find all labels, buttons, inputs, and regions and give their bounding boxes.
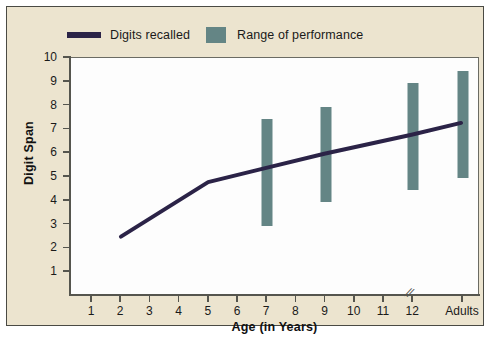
y-tick-7 (63, 128, 70, 130)
chart-panel: Digits recalled Range of performance 123… (6, 6, 484, 326)
x-tick-label-6: 6 (234, 304, 241, 318)
chart-figure: Digits recalled Range of performance 123… (0, 0, 494, 339)
x-tick-label-1: 1 (88, 304, 95, 318)
x-tick-label-9: 9 (321, 304, 328, 318)
x-tick-label-12: 12 (406, 304, 419, 318)
y-tick-label-4: 4 (39, 193, 57, 207)
y-tick-10 (63, 56, 70, 58)
x-tick-label-8: 8 (292, 304, 299, 318)
y-tick-5 (63, 175, 70, 177)
y-tick-label-10: 10 (39, 50, 57, 64)
x-tick-label-4: 4 (175, 304, 182, 318)
legend-item-range-of-performance: Range of performance (206, 22, 363, 48)
x-tick-label-10: 10 (347, 304, 360, 318)
x-tick-9 (324, 295, 326, 302)
x-tick-12 (411, 295, 413, 302)
x-tick-label-11: 11 (377, 304, 389, 318)
x-tick-10 (353, 295, 355, 302)
y-tick-3 (63, 223, 70, 225)
x-tick-7 (265, 295, 267, 302)
x-tick-2 (119, 295, 121, 302)
legend-label-range-of-performance: Range of performance (237, 28, 363, 42)
x-tick-label-3: 3 (146, 304, 153, 318)
y-tick-label-3: 3 (39, 217, 57, 231)
x-tick-8 (295, 295, 297, 302)
y-tick-label-2: 2 (39, 240, 57, 254)
digits-recalled-line (70, 58, 478, 295)
x-tick-label-7: 7 (263, 304, 270, 318)
x-tick-6 (236, 295, 238, 302)
x-tick-adults (461, 295, 463, 302)
y-tick-label-9: 9 (39, 74, 57, 88)
plot-inner (70, 58, 478, 294)
x-tick-11 (382, 295, 384, 302)
chart-legend: Digits recalled Range of performance (67, 22, 467, 48)
x-tick-label-adults: Adults (445, 304, 478, 318)
x-tick-3 (149, 295, 151, 302)
y-tick-label-7: 7 (39, 121, 57, 135)
y-axis-title: Digit Span (22, 93, 36, 213)
legend-line-swatch-icon (67, 32, 101, 38)
x-axis-title: Age (in Years) (69, 320, 480, 334)
y-tick-6 (63, 151, 70, 153)
y-tick-label-8: 8 (39, 98, 57, 112)
y-tick-1 (63, 270, 70, 272)
y-tick-2 (63, 247, 70, 249)
y-tick-label-1: 1 (39, 264, 57, 278)
x-axis-spine (69, 294, 480, 296)
x-tick-5 (207, 295, 209, 302)
plot-area (69, 57, 479, 295)
y-tick-label-5: 5 (39, 169, 57, 183)
y-tick-8 (63, 104, 70, 106)
y-tick-label-6: 6 (39, 145, 57, 159)
legend-bar-swatch-icon (206, 27, 226, 43)
x-tick-label-2: 2 (117, 304, 124, 318)
x-tick-4 (178, 295, 180, 302)
y-tick-4 (63, 199, 70, 201)
legend-item-digits-recalled: Digits recalled (67, 22, 190, 48)
x-tick-1 (90, 295, 92, 302)
y-tick-9 (63, 80, 70, 82)
x-tick-label-5: 5 (204, 304, 211, 318)
legend-label-digits-recalled: Digits recalled (110, 28, 190, 42)
